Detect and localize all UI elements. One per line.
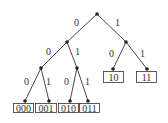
node-01 — [75, 66, 79, 70]
node-11 — [145, 67, 149, 71]
edge-label: 1 — [115, 17, 120, 28]
edge-label: 1 — [85, 76, 90, 87]
leaf-label: 000 — [16, 103, 31, 114]
leaf-label: 10 — [109, 72, 119, 83]
edge-1-10 — [113, 42, 126, 69]
node-0 — [65, 40, 69, 44]
leaf-label: 11 — [142, 72, 152, 83]
node-00 — [39, 66, 43, 70]
node-10 — [111, 67, 115, 71]
node-1 — [124, 40, 128, 44]
edge-label: 1 — [140, 48, 145, 59]
leaf-label: 011 — [82, 103, 97, 114]
edge-label: 0 — [74, 17, 79, 28]
code-tree-diagram: 0 1 0 1 0 1 0 1 0 1 000 001 010 011 10 1… — [0, 0, 168, 123]
edge-label: 0 — [109, 48, 114, 59]
node-root — [95, 12, 99, 16]
edge-01-010 — [70, 68, 77, 101]
edge-label: 1 — [46, 76, 51, 87]
edge-label: 1 — [75, 46, 80, 57]
edge-0-00 — [41, 42, 67, 68]
leaf-label: 010 — [61, 103, 76, 114]
leaf-label: 001 — [39, 103, 54, 114]
edge-root-1 — [97, 14, 126, 42]
edge-label: 0 — [64, 76, 69, 87]
edge-label: 0 — [24, 76, 29, 87]
edge-label: 0 — [46, 46, 51, 57]
edge-root-0 — [67, 14, 97, 42]
